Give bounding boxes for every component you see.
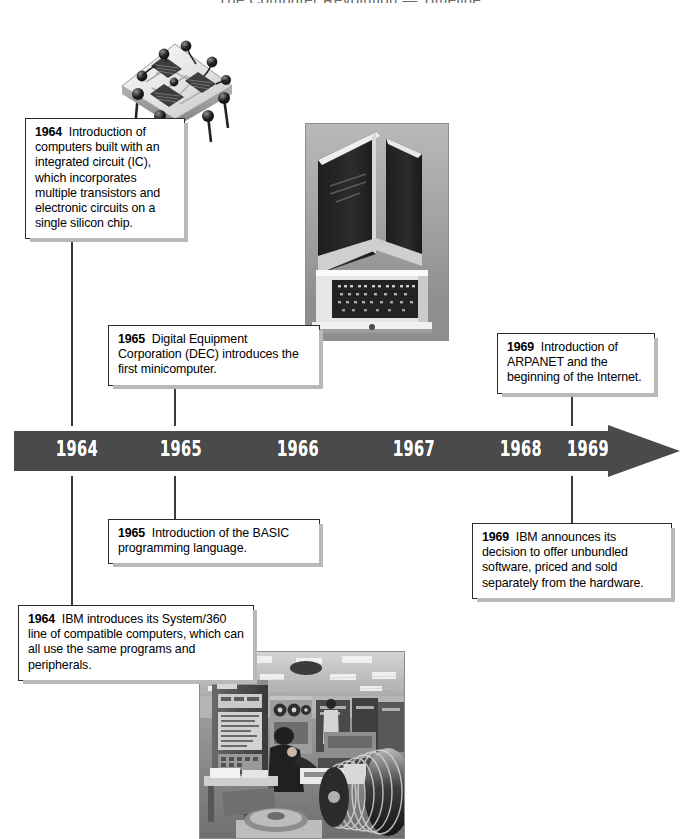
timeline-infographic: The Computer Revolution — Timeline bbox=[0, 0, 699, 839]
callout-1969-ibm-unbundling[interactable]: 1969 IBM announces its decision to offer… bbox=[472, 523, 672, 599]
box-shadow-right bbox=[654, 338, 658, 397]
box-shadow-right bbox=[319, 330, 323, 389]
callout-year: 1964 bbox=[35, 125, 62, 139]
callout-1965-dec-minicomputer[interactable]: 1965 Digital Equipment Corporation (DEC)… bbox=[108, 325, 320, 386]
callout-1964-ibm-system-360[interactable]: 1964 IBM introduces its System/360 line … bbox=[18, 605, 254, 681]
callout-text: Introduction of computers built with an … bbox=[35, 125, 160, 230]
box-shadow-right bbox=[184, 123, 188, 242]
callout-year: 1964 bbox=[28, 612, 55, 626]
page-title: The Computer Revolution — Timeline bbox=[0, 0, 699, 3]
leader-line-1965-basic bbox=[174, 476, 176, 520]
box-shadow-bottom bbox=[23, 680, 257, 684]
box-shadow-right bbox=[253, 610, 257, 684]
year-label-1966: 1966 bbox=[277, 437, 319, 461]
callout-year: 1969 bbox=[482, 530, 509, 544]
box-shadow-bottom bbox=[113, 563, 323, 567]
callout-text: IBM introduces its System/360 line of co… bbox=[28, 612, 244, 672]
minicomputer-photo bbox=[305, 123, 449, 341]
callout-1965-basic-language[interactable]: 1965 Introduction of the BASIC programmi… bbox=[108, 519, 320, 564]
box-shadow-right bbox=[671, 528, 675, 602]
callout-1969-arpanet[interactable]: 1969 Introduction of ARPANET and the beg… bbox=[497, 333, 655, 394]
callout-text: Digital Equipment Corporation (DEC) intr… bbox=[118, 332, 299, 376]
box-shadow-bottom bbox=[477, 598, 675, 602]
box-shadow-bottom bbox=[113, 385, 323, 389]
leader-line-1969-ibm bbox=[571, 476, 573, 524]
callout-year: 1969 bbox=[507, 340, 534, 354]
year-label-1967: 1967 bbox=[393, 437, 435, 461]
callout-year: 1965 bbox=[118, 526, 145, 540]
year-label-1964: 1964 bbox=[56, 437, 98, 461]
box-shadow-bottom bbox=[30, 238, 188, 242]
box-shadow-right bbox=[319, 524, 323, 567]
leader-line-1964-system360 bbox=[71, 476, 73, 606]
year-label-1965: 1965 bbox=[160, 437, 202, 461]
box-shadow-bottom bbox=[502, 393, 658, 397]
year-label-1968: 1968 bbox=[500, 437, 542, 461]
leader-line-1969-arpanet bbox=[571, 396, 573, 426]
year-label-1969: 1969 bbox=[567, 437, 609, 461]
callout-year: 1965 bbox=[118, 332, 145, 346]
callout-1964-integrated-circuit[interactable]: 1964 Introduction of computers built wit… bbox=[25, 118, 185, 239]
